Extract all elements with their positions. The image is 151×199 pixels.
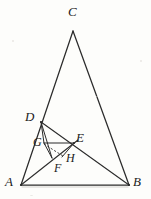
geometry-canvas [0,0,151,199]
vertex-label-C: C [68,5,77,18]
vertex-dot-A [20,184,22,186]
paper-speck [140,60,142,62]
paper-speck [12,40,14,42]
vertex-dot-B [128,184,130,186]
vertex-label-F: F [54,162,61,174]
vertex-label-H: H [66,152,75,164]
vertex-label-G: G [33,136,42,148]
paper-speck [30,195,33,196]
geometry-figure: C D E G H F A B [0,0,151,199]
paper-speck [96,96,98,97]
side-BC [73,31,129,185]
vertex-label-B: B [133,175,141,188]
vertex-label-A: A [5,175,13,188]
vertex-dot-E [73,142,75,144]
vertex-dot-D [40,121,42,123]
cevian-DB [41,122,129,185]
vertex-label-D: D [25,110,34,123]
vertex-label-E: E [76,131,84,144]
segment-DF [41,122,52,158]
